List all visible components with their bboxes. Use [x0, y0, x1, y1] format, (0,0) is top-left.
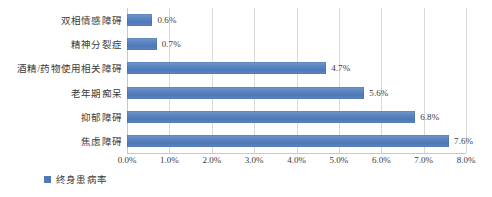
bar-value-label: 0.6%	[157, 15, 176, 25]
x-tick-label: 2.0%	[202, 155, 221, 165]
category-label: 抑郁障碍	[81, 105, 122, 129]
bar-value-label: 4.7%	[331, 63, 350, 73]
bar-value-label: 5.6%	[369, 88, 388, 98]
category-axis-labels: 双相情感障碍精神分裂症酒精/药物使用相关障碍老年期痴呆抑郁障碍焦虑障碍	[0, 8, 122, 153]
x-tick-label: 5.0%	[330, 155, 349, 165]
x-tick-label: 4.0%	[287, 155, 306, 165]
category-label: 双相情感障碍	[61, 8, 122, 32]
bar-row: 4.7%	[127, 56, 466, 80]
bar	[127, 38, 157, 50]
legend-label: 终身患病率	[56, 172, 107, 186]
category-label: 精神分裂症	[71, 32, 122, 56]
bar	[127, 135, 449, 147]
x-tick-label: 8.0%	[457, 155, 476, 165]
bar-row: 0.7%	[127, 32, 466, 56]
legend-swatch-icon	[44, 176, 51, 183]
bar-value-label: 6.8%	[420, 112, 439, 122]
bar-row: 7.6%	[127, 129, 466, 153]
bar-row: 5.6%	[127, 81, 466, 105]
bar	[127, 14, 152, 26]
plot-area: 0.6%0.7%4.7%5.6%6.8%7.6%	[127, 8, 466, 153]
bar	[127, 111, 415, 123]
category-label: 酒精/药物使用相关障碍	[17, 56, 122, 80]
bar	[127, 62, 326, 74]
bar-row: 6.8%	[127, 105, 466, 129]
bar-series: 0.6%0.7%4.7%5.6%6.8%7.6%	[127, 8, 466, 153]
bar	[127, 87, 364, 99]
legend: 终身患病率	[44, 172, 107, 186]
bar-row: 0.6%	[127, 8, 466, 32]
bar-chart: 双相情感障碍精神分裂症酒精/药物使用相关障碍老年期痴呆抑郁障碍焦虑障碍 0.6%…	[0, 0, 492, 197]
x-axis-line	[127, 153, 466, 154]
x-tick-label: 0.0%	[118, 155, 137, 165]
category-label: 焦虑障碍	[81, 129, 122, 153]
bar-value-label: 7.6%	[454, 136, 473, 146]
category-label: 老年期痴呆	[71, 81, 122, 105]
x-tick-label: 3.0%	[245, 155, 264, 165]
x-axis-tick-labels: 0.0%1.0%2.0%3.0%4.0%5.0%6.0%7.0%8.0%	[127, 155, 466, 169]
x-tick-label: 1.0%	[160, 155, 179, 165]
x-tick-label: 6.0%	[372, 155, 391, 165]
x-tick-label: 7.0%	[414, 155, 433, 165]
bar-value-label: 0.7%	[162, 39, 181, 49]
gridline	[466, 8, 467, 153]
